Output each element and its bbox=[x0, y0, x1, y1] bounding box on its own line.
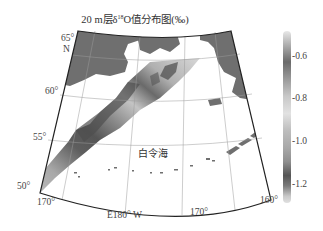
lon-label-180: E180° W bbox=[107, 211, 142, 221]
lat-label-50: 50° bbox=[17, 182, 30, 192]
colorbar-tick-1: -0.8 bbox=[292, 94, 307, 104]
lat-label-55: 55° bbox=[33, 133, 46, 143]
sea-label-bering: 白令海 bbox=[138, 145, 168, 160]
lon-label-170w: 170° bbox=[190, 208, 208, 218]
colorbar-tick-0: -0.6 bbox=[292, 52, 307, 62]
lat-label-60: 60° bbox=[45, 87, 58, 97]
lat-label-n: N bbox=[63, 45, 70, 55]
lon-label-170e: 170° bbox=[37, 198, 55, 208]
colorbar bbox=[283, 31, 291, 203]
lon-label-160w: 160° bbox=[260, 196, 278, 206]
lat-label-65: 65° bbox=[61, 34, 74, 44]
colorbar-tick-3: -1.2 bbox=[292, 180, 307, 190]
colorbar-tick-2: -1.0 bbox=[292, 137, 307, 147]
